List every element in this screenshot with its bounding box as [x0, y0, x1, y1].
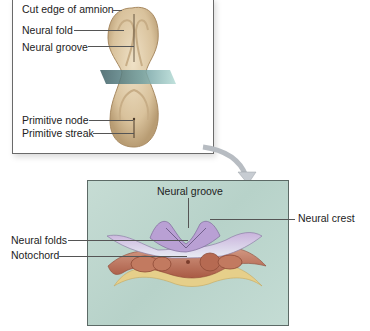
label-neural-folds: Neural folds [11, 234, 67, 246]
cross-section-illustration [0, 0, 370, 331]
leader-line [68, 240, 188, 241]
leader-line [59, 256, 187, 257]
label-neural-groove-section: Neural groove [157, 185, 223, 197]
label-neural-crest: Neural crest [298, 212, 355, 224]
leader-line [210, 219, 295, 220]
leader-line [188, 198, 189, 228]
label-notochord: Notochord [11, 249, 59, 261]
